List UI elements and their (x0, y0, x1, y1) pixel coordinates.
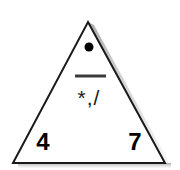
diagram-canvas: *,/ 4 7 (0, 0, 180, 170)
dot-marker (85, 43, 94, 52)
triangle-figure (0, 0, 180, 170)
